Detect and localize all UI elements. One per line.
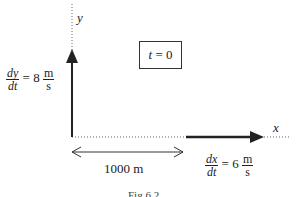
distance-label: 1000 m <box>104 161 143 177</box>
arrowhead-right-icon <box>250 131 264 143</box>
time-value: = 0 <box>155 47 172 62</box>
time-var: t <box>149 47 153 62</box>
x-rate-eq: = 6 <box>222 156 239 171</box>
x-axis-label: x <box>273 120 279 136</box>
figure-caption: Fig 6.2 <box>128 189 159 197</box>
y-rate-equation: dydt = 8 ms <box>6 67 54 92</box>
y-rate-den: dt <box>6 80 19 92</box>
y-rate-eq: = 8 <box>23 70 40 85</box>
y-axis-label: y <box>77 10 83 26</box>
y-unit-den: s <box>43 80 54 92</box>
x-rate-den: dt <box>205 166 218 178</box>
arrowhead-up-icon <box>66 49 78 63</box>
time-box: t = 0 <box>139 41 182 69</box>
x-rate-equation: dxdt = 6 ms <box>205 153 253 178</box>
x-unit-den: s <box>242 166 253 178</box>
